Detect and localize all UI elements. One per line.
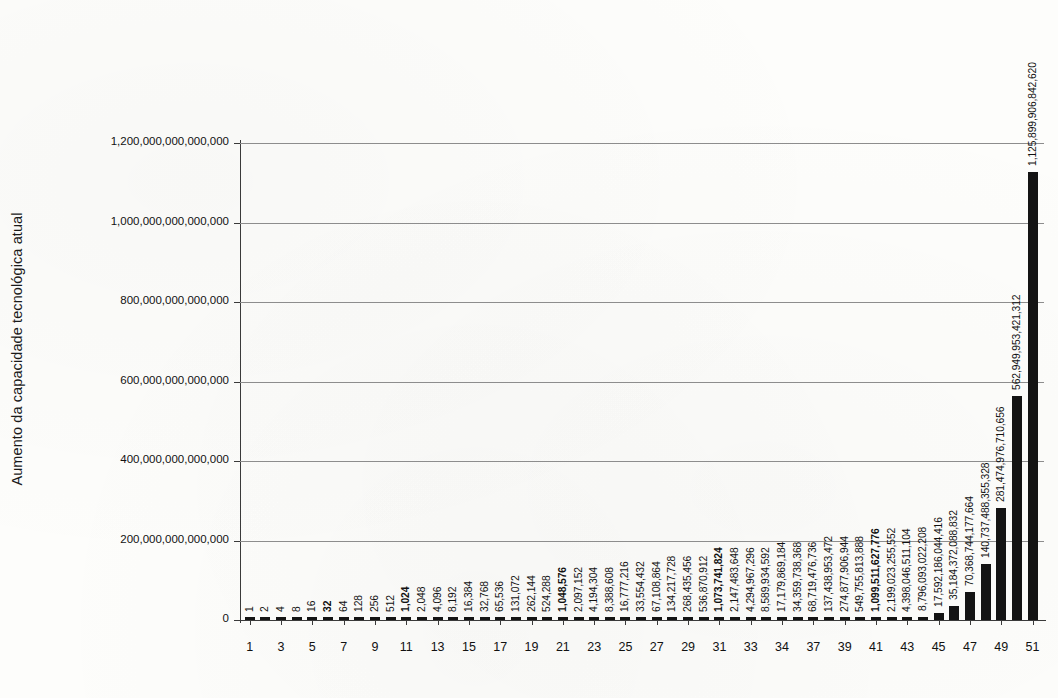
x-axis-tick-label: 33 bbox=[744, 640, 758, 654]
y-axis-tick-label: 0 bbox=[0, 612, 229, 624]
x-axis-tick-mark bbox=[563, 620, 564, 625]
bar[interactable] bbox=[965, 592, 975, 620]
bar[interactable] bbox=[981, 564, 991, 620]
bar-value-label: 4,194,304 bbox=[588, 567, 599, 612]
bar-value-label: 4,294,967,296 bbox=[744, 547, 755, 612]
x-axis-tick-mark bbox=[250, 620, 251, 625]
bar-value-label: 68,719,476,736 bbox=[807, 541, 818, 611]
x-axis-tick-mark bbox=[344, 620, 345, 625]
bar-value-label: 70,368,744,177,664 bbox=[963, 496, 974, 586]
bar-value-label: 128 bbox=[353, 595, 364, 612]
x-axis-tick-mark bbox=[438, 620, 439, 625]
x-axis-tick-mark bbox=[907, 620, 908, 625]
y-axis-tick-label: 1,000,000,000,000,000 bbox=[0, 215, 229, 227]
x-axis-tick-mark bbox=[688, 620, 689, 625]
bar-value-label: 2,199,023,255,552 bbox=[885, 527, 896, 611]
bar-value-label: 16,777,216 bbox=[619, 561, 630, 612]
bar-value-label: 274,877,906,944 bbox=[838, 536, 849, 612]
bar-column[interactable]: 70,368,744,177,664 bbox=[965, 592, 975, 620]
x-axis-tick-label: 34 bbox=[775, 640, 789, 654]
bar-value-label: 67,108,864 bbox=[650, 561, 661, 612]
bar-column[interactable]: 35,184,372,088,832 bbox=[949, 606, 959, 620]
x-axis-tick-mark bbox=[657, 620, 658, 625]
x-axis-tick-mark bbox=[970, 620, 971, 625]
bar-value-label: 32 bbox=[321, 600, 332, 611]
bar-value-label: 34,359,738,368 bbox=[791, 541, 802, 611]
y-axis-tick-label: 600,000,000,000,000 bbox=[0, 374, 229, 386]
bar-value-label: 4,096 bbox=[431, 586, 442, 611]
bar[interactable] bbox=[1028, 172, 1038, 620]
bar-column[interactable]: 562,949,953,421,312 bbox=[1012, 396, 1022, 620]
y-axis-title-text: Aumento da capacidade tecnológica atual bbox=[9, 212, 25, 485]
bar-value-label: 1,125,899,906,842,620 bbox=[1026, 63, 1037, 167]
x-axis-tick-mark bbox=[625, 620, 626, 625]
x-axis-tick-label: 41 bbox=[869, 640, 883, 654]
bar-value-label: 524,288 bbox=[541, 575, 552, 612]
x-axis-tick-label: 1 bbox=[246, 640, 253, 654]
bar-value-label: 8 bbox=[290, 606, 301, 612]
bar-value-label: 562,949,953,421,312 bbox=[1010, 295, 1021, 390]
x-axis-tick-label: 9 bbox=[371, 640, 378, 654]
bar[interactable] bbox=[934, 613, 944, 620]
bar-column[interactable]: 1,125,899,906,842,620 bbox=[1028, 172, 1038, 620]
bar-value-label: 1 bbox=[243, 606, 254, 612]
x-axis-tick-mark bbox=[1033, 620, 1034, 625]
bar-column[interactable]: 281,474,976,710,656 bbox=[996, 508, 1006, 620]
x-axis-tick-label: 7 bbox=[340, 640, 347, 654]
x-axis-tick-mark bbox=[751, 620, 752, 625]
x-axis-tick-mark bbox=[312, 620, 313, 625]
bar-value-label: 1,099,511,627,776 bbox=[869, 528, 880, 612]
y-axis-tick-label: 400,000,000,000,000 bbox=[0, 453, 229, 465]
bar-column[interactable]: 140,737,488,355,328 bbox=[981, 564, 991, 620]
bar-value-label: 2,097,152 bbox=[572, 567, 583, 612]
bar-value-label: 549,755,813,888 bbox=[854, 536, 865, 612]
y-axis-tick-label: 200,000,000,000,000 bbox=[0, 533, 229, 545]
bar-value-label: 131,072 bbox=[509, 575, 520, 612]
plot-area: 12481632641282565121,0242,0484,0968,1921… bbox=[240, 143, 1044, 620]
x-axis-tick-mark bbox=[375, 620, 376, 625]
bar[interactable] bbox=[949, 606, 959, 620]
bar-value-label: 256 bbox=[368, 595, 379, 612]
bars-group: 12481632641282565121,0242,0484,0968,1921… bbox=[240, 143, 1044, 620]
bar-value-label: 33,554,432 bbox=[635, 561, 646, 612]
bar-value-label: 134,217,728 bbox=[666, 555, 677, 611]
bar-value-label: 268,435,456 bbox=[682, 555, 693, 611]
x-axis-tick-label: 29 bbox=[681, 640, 695, 654]
x-axis-tick-mark bbox=[1001, 620, 1002, 625]
x-axis-tick-mark bbox=[719, 620, 720, 625]
y-axis-tick-label: 1,200,000,000,000,000 bbox=[0, 135, 229, 147]
x-axis-tick-mark bbox=[594, 620, 595, 625]
bar-value-label: 1,073,741,824 bbox=[713, 547, 724, 612]
bar-value-label: 1,024 bbox=[400, 586, 411, 611]
bar-value-label: 64 bbox=[337, 600, 348, 611]
x-axis-ticks: 1357911131517192123252729313334373941434… bbox=[240, 620, 1046, 670]
x-axis-tick-label: 25 bbox=[619, 640, 633, 654]
x-axis-tick-mark bbox=[500, 620, 501, 625]
bar-value-label: 281,474,976,710,656 bbox=[995, 407, 1006, 502]
x-axis-tick-mark bbox=[876, 620, 877, 625]
bar-value-label: 16 bbox=[306, 600, 317, 611]
x-axis-tick-label: 39 bbox=[838, 640, 852, 654]
x-axis-tick-label: 21 bbox=[556, 640, 570, 654]
bar-column[interactable]: 17,592,186,044,416 bbox=[934, 613, 944, 620]
x-axis-tick-label: 51 bbox=[1026, 640, 1040, 654]
x-axis-tick-mark bbox=[939, 620, 940, 625]
bar-value-label: 8,388,608 bbox=[603, 567, 614, 612]
bar[interactable] bbox=[996, 508, 1006, 620]
x-axis-tick-mark bbox=[813, 620, 814, 625]
bar-value-label: 536,870,912 bbox=[697, 555, 708, 611]
bar-value-label: 262,144 bbox=[525, 575, 536, 612]
x-axis-tick-label: 17 bbox=[493, 640, 507, 654]
x-axis-tick-mark bbox=[782, 620, 783, 625]
x-axis-tick-mark bbox=[469, 620, 470, 625]
x-axis-tick-label: 27 bbox=[650, 640, 664, 654]
x-axis-tick-label: 3 bbox=[278, 640, 285, 654]
bar-value-label: 2,147,483,648 bbox=[729, 547, 740, 612]
x-axis-tick-label: 15 bbox=[462, 640, 476, 654]
y-axis-title: Aumento da capacidade tecnológica atual bbox=[0, 0, 34, 698]
bar[interactable] bbox=[1012, 396, 1022, 620]
x-axis-tick-label: 19 bbox=[525, 640, 539, 654]
x-axis-tick-label: 45 bbox=[932, 640, 946, 654]
x-axis-tick-mark bbox=[281, 620, 282, 625]
y-axis-tick-label: 800,000,000,000,000 bbox=[0, 294, 229, 306]
